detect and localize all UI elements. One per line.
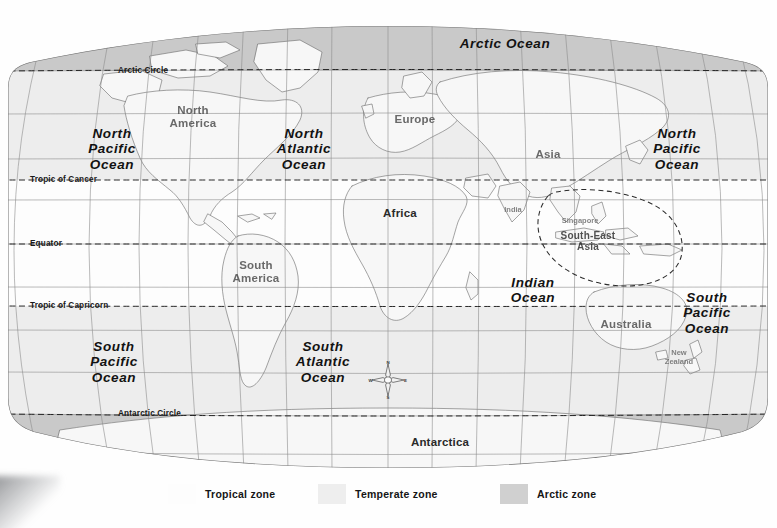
world-map-page: Arctic Circle Tropic of Cancer Equator T… (0, 0, 777, 528)
legend-swatch-tropical (168, 484, 196, 504)
legend-label-tropical-zone: Tropical zone (205, 488, 275, 500)
compass-north: N (386, 360, 389, 365)
legend-swatch-temperate (318, 484, 346, 504)
map-legend: Tropical zone Temperate zone Arctic zone (0, 470, 777, 528)
compass-south: S (387, 395, 390, 400)
world-map: Arctic Circle Tropic of Cancer Equator T… (0, 0, 777, 470)
legend-swatch-arctic (500, 484, 528, 504)
legend-item-temperate-zone: Temperate zone (318, 484, 438, 504)
legend-item-tropical-zone: Tropical zone (168, 484, 275, 504)
legend-label-arctic-zone: Arctic zone (537, 488, 596, 500)
compass-east: E (404, 378, 407, 383)
legend-label-temperate-zone: Temperate zone (355, 488, 438, 500)
compass-rose: N S E W (368, 360, 408, 400)
legend-item-arctic-zone: Arctic zone (500, 484, 596, 504)
